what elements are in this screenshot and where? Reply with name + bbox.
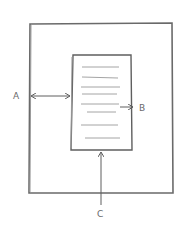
content-box	[71, 55, 132, 150]
label-a: A	[13, 91, 20, 101]
layout-sketch-diagram: A B C	[0, 0, 179, 227]
label-b: B	[139, 103, 145, 113]
label-c: C	[97, 209, 103, 219]
